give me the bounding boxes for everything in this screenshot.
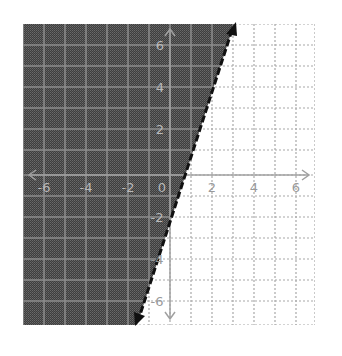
y-tick-label: -6 <box>151 294 164 309</box>
x-tick-label: 6 <box>292 180 300 195</box>
x-tick-label: -4 <box>80 180 93 195</box>
y-tick-label: 2 <box>156 122 164 137</box>
y-tick-label: -4 <box>151 252 164 267</box>
x-tick-label: -6 <box>38 180 51 195</box>
inequality-graph: -6 -4 -2 0 2 4 6 6 4 2 -2 -4 -6 <box>0 0 342 356</box>
x-tick-label: 0 <box>158 180 166 195</box>
x-tick-label: 4 <box>250 180 258 195</box>
x-tick-label: 2 <box>208 180 216 195</box>
y-tick-label: 6 <box>156 38 164 53</box>
y-tick-label: -2 <box>151 210 164 225</box>
x-tick-label: -2 <box>122 180 135 195</box>
y-tick-label: 4 <box>156 80 164 95</box>
